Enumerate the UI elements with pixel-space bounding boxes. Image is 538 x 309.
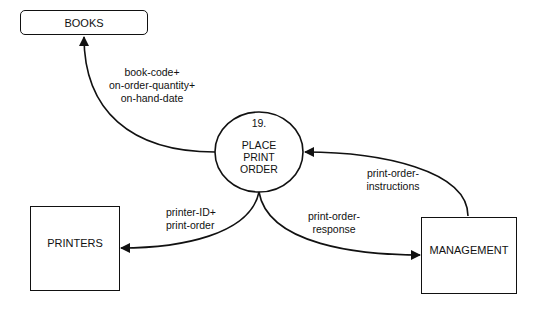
entity-management-label: MANAGEMENT bbox=[430, 244, 509, 256]
process-name-line: ORDER bbox=[229, 163, 289, 175]
entity-printers: PRINTERS bbox=[30, 206, 120, 291]
flow-label-line: book-code+ bbox=[104, 66, 200, 79]
flow-label-line: response bbox=[304, 223, 364, 236]
flow-label-line: on-order-quantity+ bbox=[104, 79, 200, 92]
flow-label-line: print-order- bbox=[358, 167, 428, 180]
flow-label-from-management: print-order- instructions bbox=[358, 167, 428, 193]
entity-printers-label: PRINTERS bbox=[47, 237, 103, 249]
entity-management: MANAGEMENT bbox=[421, 217, 517, 294]
entity-books-label: BOOKS bbox=[64, 17, 103, 29]
process-name-line: PLACE bbox=[229, 139, 289, 151]
flow-label-line: instructions bbox=[358, 180, 428, 193]
process-number: 19. bbox=[247, 117, 271, 130]
flow-label-line: print-order- bbox=[304, 210, 364, 223]
flow-label-to-management: print-order- response bbox=[304, 210, 364, 236]
process-name-line: PRINT bbox=[229, 151, 289, 163]
entity-books: BOOKS bbox=[20, 10, 148, 35]
flow-label-line: on-hand-date bbox=[104, 92, 200, 105]
flow-label-line: print-order bbox=[166, 219, 226, 232]
flow-label-to-printers: printer-ID+ print-order bbox=[166, 206, 226, 232]
process-name: PLACE PRINT ORDER bbox=[229, 139, 289, 175]
flow-label-line: printer-ID+ bbox=[166, 206, 226, 219]
flow-label-to-books: book-code+ on-order-quantity+ on-hand-da… bbox=[104, 66, 200, 105]
